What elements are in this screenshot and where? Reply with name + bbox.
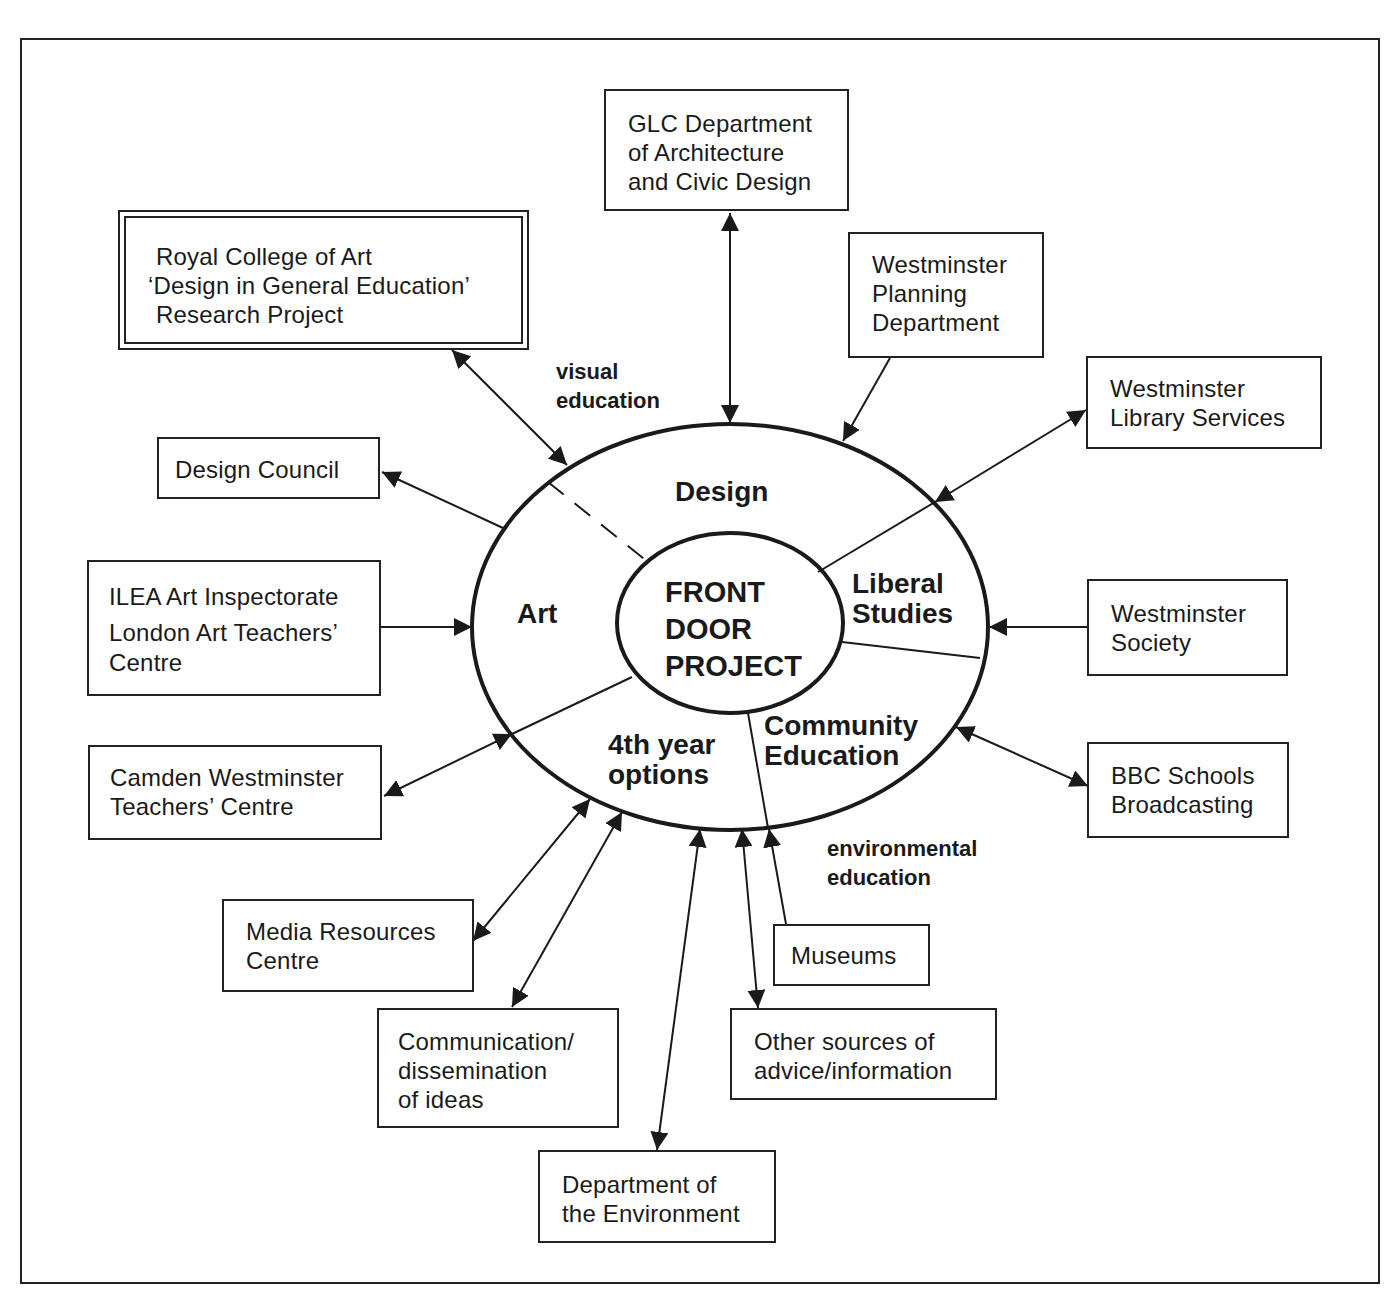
arrow-communication bbox=[512, 812, 622, 1007]
node-bbc: BBC Schools Broadcasting bbox=[1087, 742, 1289, 838]
arrow-westminster-planning bbox=[843, 358, 890, 441]
divider-design-liberal bbox=[818, 502, 935, 572]
node-westminster-planning: Westminster Planning Department bbox=[848, 232, 1044, 358]
arrow-museums bbox=[769, 829, 786, 924]
node-westminster-library: Westminster Library Services bbox=[1086, 356, 1322, 449]
arrow-doe bbox=[657, 829, 700, 1150]
node-glc: GLC Department of Architecture and Civic… bbox=[604, 89, 849, 211]
node-media-resources: Media Resources Centre bbox=[222, 899, 474, 992]
segment-design: Design bbox=[675, 477, 768, 507]
arrow-bbc bbox=[956, 727, 1088, 786]
arrow-westminster-library bbox=[935, 410, 1086, 502]
node-ilea: ILEA Art Inspectorate London Art Teacher… bbox=[87, 560, 381, 696]
node-design-council: Design Council bbox=[157, 437, 380, 499]
node-rca-inner: Royal College of Art ‘Design in General … bbox=[124, 216, 523, 344]
segment-community-education: Community Education bbox=[764, 711, 918, 771]
arrow-rca bbox=[452, 350, 567, 465]
arrow-other-sources bbox=[742, 829, 758, 1008]
label-visual-education: visual education bbox=[556, 357, 660, 415]
segment-4th-year-options: 4th year options bbox=[608, 730, 715, 790]
node-camden: Camden Westminster Teachers’ Centre bbox=[88, 745, 382, 840]
node-department-of-environment: Department of the Environment bbox=[538, 1150, 776, 1243]
label-environmental-education: environmental education bbox=[827, 834, 977, 892]
segment-liberal-studies: Liberal Studies bbox=[852, 569, 953, 629]
arrow-media bbox=[473, 799, 590, 941]
node-museums: Museums bbox=[773, 924, 930, 986]
arrow-camden bbox=[384, 734, 512, 796]
center-label: FRONT DOOR PROJECT bbox=[665, 574, 802, 685]
divider-liberal-community bbox=[842, 642, 980, 658]
node-other-sources: Other sources of advice/information bbox=[730, 1008, 997, 1100]
node-westminster-society: Westminster Society bbox=[1087, 579, 1288, 676]
divider-art-design bbox=[548, 482, 648, 562]
node-communication: Communication/ dissemination of ideas bbox=[377, 1008, 619, 1128]
segment-art: Art bbox=[517, 599, 557, 629]
arrow-design-council bbox=[382, 472, 503, 528]
node-rca: Royal College of Art ‘Design in General … bbox=[118, 210, 529, 350]
divider-art-4th bbox=[512, 677, 632, 734]
